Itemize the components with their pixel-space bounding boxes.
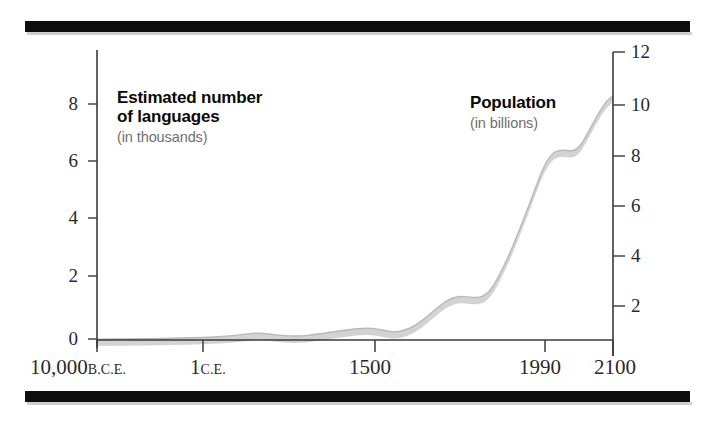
chart-figure: 8 6 4 2 0 12 10 8 6 4 2 10,000B.C.E. 1C.… — [0, 0, 705, 424]
right-tick-12: 12 — [631, 41, 661, 63]
languages-annotation-subtitle: (in thousands) — [117, 129, 267, 145]
population-annotation-title: Population — [470, 93, 630, 112]
left-axis — [88, 50, 97, 348]
x-tick-1-ce-era: C.E. — [201, 362, 226, 377]
x-tick-10000-bce-number: 10,000 — [30, 355, 88, 379]
left-tick-4: 4 — [52, 207, 78, 229]
languages-annotation: Estimated number of languages (in thousa… — [117, 88, 267, 145]
x-tick-1990-number: 1990 — [519, 355, 561, 379]
x-tick-1-ce: 1C.E. — [190, 355, 226, 380]
right-tick-4: 4 — [631, 245, 661, 267]
x-tick-10000-bce-era: B.C.E. — [88, 362, 126, 377]
left-tick-2: 2 — [52, 265, 78, 287]
x-tick-10000-bce: 10,000B.C.E. — [30, 355, 126, 380]
x-tick-1-ce-number: 1 — [190, 355, 201, 379]
x-tick-1500: 1500 — [349, 355, 391, 380]
left-tick-8: 8 — [52, 93, 78, 115]
left-tick-6: 6 — [52, 150, 78, 172]
population-annotation: Population (in billions) — [470, 93, 630, 131]
right-tick-6: 6 — [631, 195, 661, 217]
population-annotation-subtitle: (in billions) — [470, 115, 630, 131]
right-tick-2: 2 — [631, 295, 661, 317]
x-tick-1990: 1990 — [519, 355, 561, 380]
x-tick-2100-number: 2100 — [594, 355, 636, 379]
languages-annotation-title: Estimated number of languages — [117, 88, 267, 126]
right-tick-8: 8 — [631, 145, 661, 167]
right-tick-10: 10 — [631, 94, 661, 116]
x-tick-1500-number: 1500 — [349, 355, 391, 379]
left-tick-0: 0 — [52, 328, 78, 350]
x-tick-2100: 2100 — [594, 355, 636, 380]
